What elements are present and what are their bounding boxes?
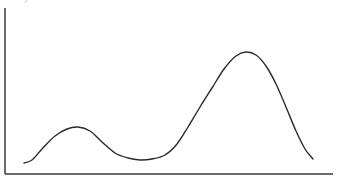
line-chart: [0, 0, 338, 178]
data-curve: [24, 52, 313, 163]
